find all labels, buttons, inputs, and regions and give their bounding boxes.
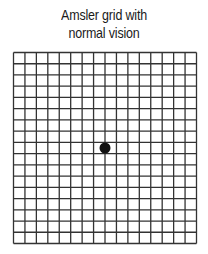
center-fixation-dot	[100, 143, 111, 154]
amsler-grid	[0, 0, 208, 254]
